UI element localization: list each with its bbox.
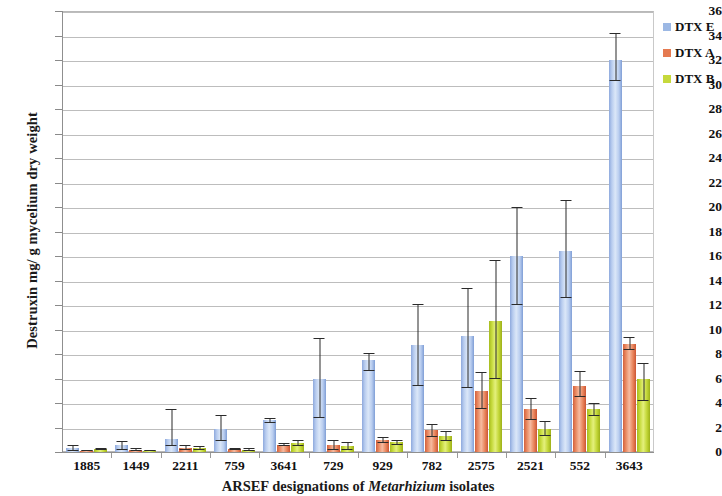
bar-dtx-e[interactable] (263, 11, 276, 452)
bar-dtx-a[interactable] (475, 11, 488, 452)
error-bar (278, 443, 289, 446)
y-tick-mark (55, 183, 62, 184)
error-bar-cap-bottom (638, 400, 649, 401)
bar-groups (62, 11, 654, 452)
bar-dtx-b[interactable] (439, 11, 452, 452)
error-bar (610, 33, 621, 81)
error-bar-cap-bottom (130, 450, 141, 451)
error-bar-cap-bottom (462, 387, 473, 388)
bar-dtx-b[interactable] (143, 11, 156, 452)
error-bar-cap-bottom (476, 408, 487, 409)
bar-group (555, 11, 604, 452)
error-bar-cap-top (426, 424, 437, 425)
bar-dtx-b[interactable] (94, 11, 107, 452)
bar-dtx-e[interactable] (461, 11, 474, 452)
error-bar-stem (629, 337, 630, 350)
bar-dtx-a[interactable] (376, 11, 389, 452)
y-tick-label: 0 (676, 445, 722, 459)
bar-dtx-e[interactable] (313, 11, 326, 452)
error-bar-cap-bottom (180, 449, 191, 450)
bar-dtx-b[interactable] (341, 11, 354, 452)
error-bar-cap-top (67, 445, 78, 446)
bar-dtx-a[interactable] (179, 11, 192, 452)
error-bar-cap-top (462, 288, 473, 289)
y-tick-mark (55, 134, 62, 135)
bar-dtx-e[interactable] (362, 11, 375, 452)
bar-dtx-b[interactable] (242, 11, 255, 452)
bar-dtx-b[interactable] (193, 11, 206, 452)
error-bar-cap-bottom (278, 445, 289, 446)
y-tick-mark (55, 281, 62, 282)
bar-dtx-e[interactable] (411, 11, 424, 452)
bar-dtx-a[interactable] (623, 11, 636, 452)
x-tick-label: 3641 (259, 458, 308, 474)
legend-item[interactable]: DTX A (663, 40, 721, 66)
y-tick-label: 26 (676, 127, 722, 141)
x-tick-label: 552 (555, 458, 604, 474)
x-tick-label: 759 (210, 458, 259, 474)
error-bar-cap-bottom (95, 449, 106, 450)
bar-dtx-a[interactable] (573, 11, 586, 452)
bar-dtx-b[interactable] (637, 11, 650, 452)
bar-dtx-e[interactable] (214, 11, 227, 452)
error-bar-cap-top (624, 337, 635, 338)
x-tick-label: 3643 (605, 458, 654, 474)
y-tick-mark (55, 85, 62, 86)
y-tick-mark (55, 158, 62, 159)
error-bar-stem (481, 372, 482, 409)
legend-swatch-icon (663, 49, 671, 57)
bar-group (407, 11, 456, 452)
x-axis-title: ARSEF designations of Metarhizium isolat… (62, 478, 654, 495)
x-axis-title-italic: Metarhizium (368, 478, 445, 494)
error-bar (194, 446, 205, 450)
error-bar-stem (369, 353, 370, 371)
error-bar-cap-top (363, 353, 374, 354)
error-bar-cap-top (412, 304, 423, 305)
bar-dtx-b[interactable] (587, 11, 600, 452)
bar-group (457, 11, 506, 452)
error-bar-cap-top (638, 363, 649, 364)
error-bar (476, 372, 487, 409)
bar-dtx-a[interactable] (327, 11, 340, 452)
x-tick-label: 929 (358, 458, 407, 474)
y-tick-mark (55, 379, 62, 380)
error-bar (490, 260, 501, 379)
bar-dtx-e[interactable] (115, 11, 128, 452)
error-bar (363, 353, 374, 371)
error-bar (116, 441, 127, 450)
bar-dtx-b[interactable] (538, 11, 551, 452)
error-bar-cap-top (610, 33, 621, 34)
bar-dtx-b[interactable] (390, 11, 403, 452)
error-bar (440, 431, 451, 441)
bar-dtx-a[interactable] (228, 11, 241, 452)
bar-dtx-a[interactable] (80, 11, 93, 452)
bar-dtx-e[interactable] (66, 11, 79, 452)
bar-group (210, 11, 259, 452)
bar-dtx-b[interactable] (291, 11, 304, 452)
error-bar-stem (517, 207, 518, 305)
bar-dtx-a[interactable] (277, 11, 290, 452)
error-bar-cap-top (588, 403, 599, 404)
bar-dtx-e[interactable] (559, 11, 572, 452)
error-bar-cap-bottom (525, 419, 536, 420)
bar-rect (263, 420, 276, 452)
error-bar (462, 288, 473, 388)
legend-item[interactable]: DTX B (663, 66, 721, 92)
bar-rect (362, 360, 375, 452)
bar-dtx-a[interactable] (425, 11, 438, 452)
error-bar-cap-bottom (166, 445, 177, 446)
y-tick-label: 28 (676, 102, 722, 116)
bar-dtx-b[interactable] (489, 11, 502, 452)
bar-dtx-a[interactable] (129, 11, 142, 452)
bar-group (605, 11, 654, 452)
legend: DTX EDTX ADTX B (663, 14, 721, 92)
error-bar (67, 445, 78, 451)
legend-item[interactable]: DTX E (663, 14, 721, 40)
bar-dtx-e[interactable] (510, 11, 523, 452)
error-bar-stem (580, 371, 581, 397)
error-bar-cap-top (116, 441, 127, 442)
bar-dtx-a[interactable] (524, 11, 537, 452)
bar-dtx-e[interactable] (165, 11, 178, 452)
bar-dtx-e[interactable] (609, 11, 622, 452)
error-bar-cap-bottom (314, 417, 325, 418)
